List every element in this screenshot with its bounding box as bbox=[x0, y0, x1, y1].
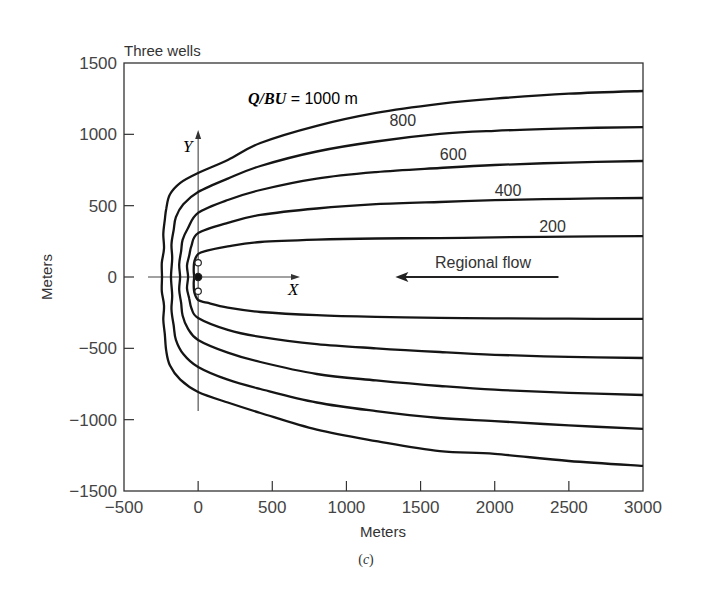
x-tick-label: 2000 bbox=[476, 498, 514, 517]
parameter-value: = 1000 m bbox=[286, 90, 358, 107]
curve-label-400: 400 bbox=[495, 182, 522, 199]
chart: −500050010001500200025003000150010005000… bbox=[0, 0, 701, 592]
wells bbox=[195, 260, 202, 295]
y-tick-label: 1500 bbox=[79, 54, 117, 73]
x-tick-label: 1000 bbox=[328, 498, 366, 517]
y-tick-label: −500 bbox=[79, 339, 117, 358]
y-tick-label: 1000 bbox=[79, 125, 117, 144]
inner-x-axis-label: X bbox=[287, 280, 299, 299]
x-tick-label: 1500 bbox=[402, 498, 440, 517]
curve-label-200: 200 bbox=[539, 218, 566, 235]
y-tick-label: 500 bbox=[89, 197, 117, 216]
well-icon bbox=[195, 260, 201, 266]
parameter-label: Q/BU = 1000 m bbox=[248, 90, 358, 107]
curve-label-600: 600 bbox=[440, 146, 467, 163]
regional-flow-label: Regional flow bbox=[435, 254, 532, 271]
y-arrowhead-icon bbox=[195, 130, 201, 139]
parameter-symbol: Q/BU bbox=[248, 90, 288, 107]
curve-label-800: 800 bbox=[389, 112, 416, 129]
y-tick-label: −1500 bbox=[69, 482, 117, 501]
y-axis-title: Meters bbox=[38, 254, 55, 300]
y-tick-label: −1000 bbox=[69, 411, 117, 430]
x-tick-label: 0 bbox=[193, 498, 202, 517]
figure-caption: (c) bbox=[358, 552, 374, 568]
regional-flow-annotation bbox=[395, 272, 558, 282]
axis-ticks: −500050010001500200025003000150010005000… bbox=[69, 54, 662, 517]
x-tick-label: 3000 bbox=[624, 498, 662, 517]
x-tick-label: 2500 bbox=[550, 498, 588, 517]
inner-y-axis-label: Y bbox=[183, 137, 194, 156]
well-icon bbox=[195, 288, 201, 294]
y-tick-label: 0 bbox=[108, 268, 117, 287]
chart-title: Three wells bbox=[124, 42, 201, 59]
pumping-well-icon bbox=[195, 273, 202, 280]
x-axis-title: Meters bbox=[360, 523, 406, 540]
x-tick-label: 500 bbox=[258, 498, 286, 517]
